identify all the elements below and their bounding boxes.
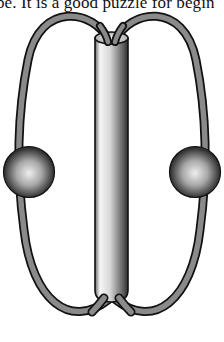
puzzle-illustration xyxy=(0,0,224,342)
tube xyxy=(95,26,128,302)
right-bead xyxy=(170,147,221,198)
left-bead xyxy=(4,147,55,198)
